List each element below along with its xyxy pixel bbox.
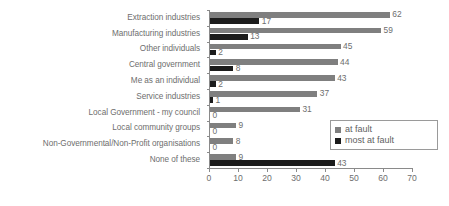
bar-value-label: 43 [337, 159, 346, 167]
category-label-row: Central government [0, 57, 205, 73]
x-axis-tick [238, 168, 239, 172]
bar-group: 432 [210, 73, 412, 89]
bar-0 [210, 75, 335, 81]
category-label-row: Non-Governmental/Non-Profit organisation… [0, 136, 205, 152]
bar-1 [210, 34, 248, 40]
bar-value-label: 59 [384, 26, 393, 34]
category-tick [207, 10, 211, 11]
x-axis-tick-label: 30 [291, 174, 301, 183]
x-axis-tick [296, 168, 297, 172]
category-label-row: Manufacturing industries [0, 26, 205, 42]
category-label: Me as an individual [131, 77, 200, 85]
x-axis-tick [412, 168, 413, 172]
category-label-row: Local community groups [0, 121, 205, 137]
legend-label: at fault [345, 125, 372, 134]
category-tick [207, 42, 211, 43]
bar-group: 6217 [210, 10, 412, 26]
bar-value-label: 9 [239, 121, 244, 129]
bar-0 [210, 12, 390, 18]
category-label: Local community groups [112, 124, 200, 132]
category-label-row: Other individuals [0, 42, 205, 58]
bar-value-label: 45 [343, 42, 352, 50]
x-axis-tick-label: 70 [407, 174, 417, 183]
bar-0 [210, 44, 341, 50]
x-axis-tick [354, 168, 355, 172]
category-axis-labels: Extraction industriesManufacturing indus… [0, 10, 205, 168]
bar-value-label: 0 [213, 127, 218, 135]
x-axis-tick-label: 60 [378, 174, 388, 183]
legend-item[interactable]: most at fault [335, 135, 432, 146]
category-label: Non-Governmental/Non-Profit organisation… [43, 140, 200, 148]
x-axis-tick-label: 40 [320, 174, 330, 183]
bar-value-label: 2 [218, 48, 223, 56]
category-label: Local Government - my council [89, 109, 200, 117]
bar-group: 310 [210, 105, 412, 121]
bar-1 [210, 160, 335, 166]
bar-1 [210, 81, 216, 87]
bar-1 [210, 97, 213, 103]
x-axis-tick [267, 168, 268, 172]
bar-value-label: 8 [236, 137, 241, 145]
bar-value-label: 2 [218, 80, 223, 88]
category-label-row: Service industries [0, 89, 205, 105]
bar-1 [210, 50, 216, 56]
category-tick [207, 57, 211, 58]
legend-item[interactable]: at fault [335, 124, 432, 135]
bar-0 [210, 154, 236, 160]
category-tick [207, 89, 211, 90]
category-label: Extraction industries [127, 14, 200, 22]
bar-value-label: 13 [250, 32, 259, 40]
category-label-row: Local Government - my council [0, 105, 205, 121]
x-axis-tick-label: 20 [262, 174, 272, 183]
category-label: Manufacturing industries [112, 30, 200, 38]
category-label-row: Extraction industries [0, 10, 205, 26]
category-label: Other individuals [140, 45, 200, 53]
bar-group: 371 [210, 89, 412, 105]
bar-group: 5913 [210, 26, 412, 42]
x-axis-tick-label: 0 [207, 174, 212, 183]
legend-swatch-icon [335, 127, 341, 133]
category-label: Service industries [136, 93, 200, 101]
legend-swatch-icon [335, 138, 341, 144]
chart-legend: at faultmost at fault [330, 120, 438, 150]
bar-value-label: 44 [340, 58, 349, 66]
category-label-row: None of these [0, 152, 205, 168]
bar-value-label: 17 [262, 17, 271, 25]
bar-1 [210, 66, 233, 72]
bar-value-label: 1 [215, 96, 220, 104]
horizontal-bar-chart: Extraction industriesManufacturing indus… [0, 0, 449, 206]
bar-value-label: 0 [213, 111, 218, 119]
category-tick [207, 73, 211, 74]
x-axis-tick [325, 168, 326, 172]
bar-value-label: 37 [320, 89, 329, 97]
bar-0 [210, 59, 338, 65]
bar-1 [210, 18, 259, 24]
category-label: None of these [150, 156, 200, 164]
category-tick [207, 121, 211, 122]
category-label-row: Me as an individual [0, 73, 205, 89]
bar-0 [210, 107, 300, 113]
bar-value-label: 8 [236, 64, 241, 72]
x-axis-tick [209, 168, 210, 172]
category-label: Central government [129, 61, 200, 69]
bar-value-label: 0 [213, 143, 218, 151]
bar-value-label: 62 [392, 10, 401, 18]
x-axis-tick-label: 50 [349, 174, 359, 183]
bar-group: 943 [210, 152, 412, 168]
x-axis-tick-label: 10 [233, 174, 243, 183]
category-tick [207, 152, 211, 153]
bar-0 [210, 28, 381, 34]
bar-group: 452 [210, 42, 412, 58]
bar-group: 448 [210, 57, 412, 73]
x-axis-tick [383, 168, 384, 172]
bar-value-label: 31 [302, 105, 311, 113]
category-tick [207, 26, 211, 27]
legend-label: most at fault [345, 136, 394, 145]
category-tick [207, 105, 211, 106]
bar-value-label: 43 [337, 74, 346, 82]
category-tick [207, 136, 211, 137]
bar-0 [210, 91, 317, 97]
